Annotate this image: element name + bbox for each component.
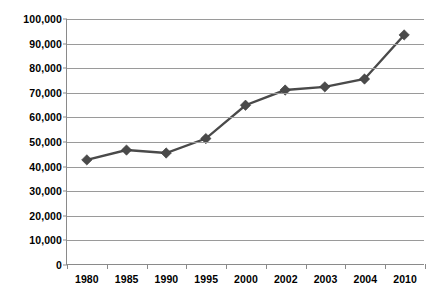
y-axis-tick-label: 60,000 (29, 111, 62, 123)
y-gridline (67, 240, 424, 241)
x-axis-tick-mark (385, 264, 386, 269)
y-axis-tick-label: 80,000 (29, 62, 62, 74)
y-gridline (67, 44, 424, 45)
x-axis-tick-label: 1995 (194, 273, 218, 285)
x-axis-tick-mark (266, 264, 267, 269)
data-point-marker (320, 82, 330, 92)
x-axis-tick-label: 2002 (274, 273, 298, 285)
x-axis-tick-label: 2010 (393, 273, 417, 285)
y-axis-tick-label: 40,000 (29, 161, 62, 173)
data-point-marker (121, 145, 131, 155)
y-axis-tick-mark (63, 117, 67, 118)
x-axis-tick-label: 2003 (314, 273, 338, 285)
y-axis-tick-mark (63, 92, 67, 93)
x-axis-tick-label: 2000 (234, 273, 258, 285)
line-chart-figure: 010,00020,00030,00040,00050,00060,00070,… (0, 0, 441, 301)
data-point-marker (82, 155, 92, 165)
y-axis-tick-mark (63, 240, 67, 241)
y-gridline (67, 191, 424, 192)
x-axis-tick-mark (306, 264, 307, 269)
y-axis-tick-label: 100,000 (23, 13, 62, 25)
x-axis-tick-mark (147, 264, 148, 269)
y-axis-tick-mark (63, 68, 67, 69)
y-axis-tick-mark (63, 19, 67, 20)
y-axis-tick-label: 10,000 (29, 234, 62, 246)
data-point-marker (161, 148, 171, 158)
y-axis-tick-label: 90,000 (29, 38, 62, 50)
x-axis-tick-mark (186, 264, 187, 269)
x-axis-tick-label: 1990 (155, 273, 179, 285)
x-axis-tick-label: 1980 (75, 273, 99, 285)
y-axis-tick-label: 30,000 (29, 185, 62, 197)
y-axis-tick-label: 0 (56, 259, 62, 271)
y-axis-tick-mark (63, 142, 67, 143)
x-axis-tick-mark (67, 264, 68, 269)
x-axis-tick-mark (107, 264, 108, 269)
x-axis-tick-mark (345, 264, 346, 269)
y-axis-tick-mark (63, 191, 67, 192)
y-axis-tick-mark (63, 43, 67, 44)
y-gridline (67, 19, 424, 20)
x-axis-tick-mark (226, 264, 227, 269)
x-axis-tick-label: 1985 (115, 273, 139, 285)
x-axis-tick-mark (425, 264, 426, 269)
plot-area: 010,00020,00030,00040,00050,00060,00070,… (66, 19, 424, 265)
y-axis-tick-label: 70,000 (29, 87, 62, 99)
x-axis-tick-label: 2004 (353, 273, 377, 285)
y-axis-tick-mark (63, 215, 67, 216)
y-gridline (67, 93, 424, 94)
y-axis-tick-label: 20,000 (29, 210, 62, 222)
y-gridline (67, 142, 424, 143)
y-gridline (67, 117, 424, 118)
y-gridline (67, 167, 424, 168)
y-gridline (67, 68, 424, 69)
y-gridline (67, 216, 424, 217)
y-axis-tick-mark (63, 166, 67, 167)
y-axis-tick-label: 50,000 (29, 136, 62, 148)
